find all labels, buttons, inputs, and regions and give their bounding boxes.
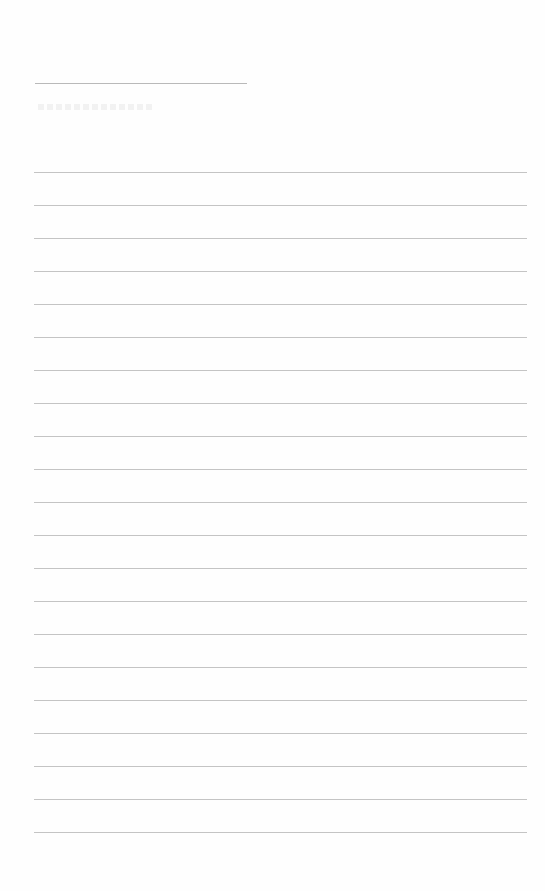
ruled-line [34,271,527,272]
ruled-line [34,172,527,173]
ruled-line [34,832,527,833]
ruled-line [34,436,527,437]
ruled-line [34,469,527,470]
ruled-line [34,667,527,668]
ruled-line [34,337,527,338]
ruled-line [34,205,527,206]
ruled-line [34,370,527,371]
ruled-line [34,502,527,503]
ruled-lines [34,0,527,891]
ruled-line [34,403,527,404]
ruled-line [34,799,527,800]
ruled-line [34,304,527,305]
ruled-line [34,700,527,701]
ruled-line [34,535,527,536]
ruled-line [34,568,527,569]
ruled-line [34,601,527,602]
ruled-line [34,733,527,734]
ruled-line [34,766,527,767]
ruled-paper-page [0,0,545,891]
ruled-line [34,238,527,239]
ruled-line [34,634,527,635]
